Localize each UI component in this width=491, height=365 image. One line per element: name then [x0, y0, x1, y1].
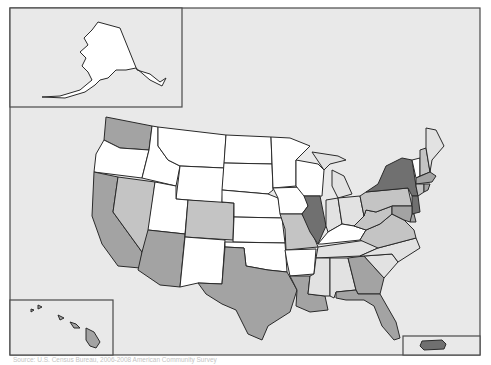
us-choropleth-map	[0, 0, 491, 365]
state-AR	[285, 249, 316, 276]
hawaii-inset	[10, 300, 113, 355]
state-NJ	[412, 196, 420, 214]
state-PR	[420, 340, 446, 350]
puerto-rico-inset	[403, 336, 480, 355]
state-WI	[296, 160, 324, 196]
alaska-inset	[10, 8, 182, 107]
state-SD	[222, 163, 273, 194]
source-note: Source: U.S. Census Bureau, 2006-2008 Am…	[13, 356, 217, 363]
state-NM	[180, 237, 225, 287]
state-ND	[224, 135, 272, 164]
state-KS	[233, 217, 285, 243]
state-WY	[176, 166, 224, 203]
state-CO	[185, 200, 234, 240]
